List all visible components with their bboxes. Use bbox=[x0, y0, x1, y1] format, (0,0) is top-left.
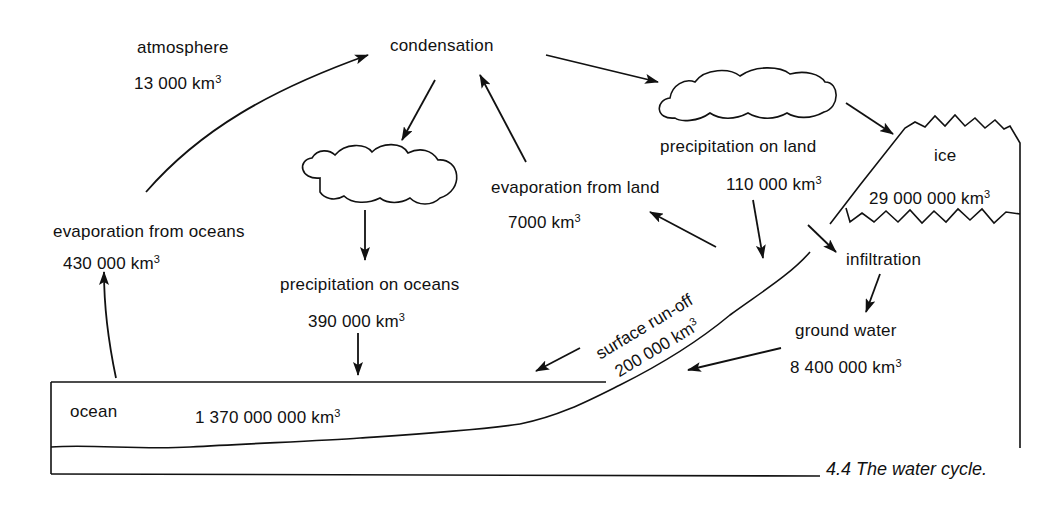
ocean-label: ocean bbox=[70, 402, 117, 422]
arrow-ground-water-flow bbox=[688, 348, 781, 370]
evaporation-land-value: 7000 km3 bbox=[508, 208, 581, 233]
ice-mountain-icon bbox=[830, 115, 1020, 448]
arrow-surface-runoff bbox=[536, 348, 580, 371]
infiltration-label: infiltration bbox=[846, 250, 921, 270]
precipitation-land-value: 110 000 km3 bbox=[726, 170, 822, 195]
ice-label: ice bbox=[934, 146, 956, 166]
arrow-condensation-to-land-cloud bbox=[546, 55, 658, 82]
precipitation-oceans-label: precipitation on oceans bbox=[280, 275, 459, 295]
evaporation-land-label: evaporation from land bbox=[491, 178, 660, 198]
flow-arrows bbox=[104, 55, 893, 378]
arrow-precipitation-on-land bbox=[753, 200, 763, 258]
arrow-evaporation-from-oceans bbox=[104, 272, 116, 378]
ocean-basin bbox=[51, 382, 820, 476]
atmosphere-value: 13 000 km3 bbox=[134, 69, 222, 94]
ice-value: 29 000 000 km3 bbox=[869, 184, 990, 209]
ground-water-value: 8 400 000 km3 bbox=[790, 353, 902, 378]
arrow-to-ground-water bbox=[866, 274, 880, 312]
evaporation-oceans-label: evaporation from oceans bbox=[53, 222, 245, 242]
arrow-condensation-to-cloud bbox=[402, 80, 435, 140]
cloud-icon bbox=[303, 145, 457, 204]
precipitation-land-label: precipitation on land bbox=[660, 137, 816, 157]
condensation-label: condensation bbox=[390, 36, 494, 56]
arrow-evaporation-from-land bbox=[650, 212, 716, 247]
arrow-infiltration bbox=[808, 225, 836, 252]
figure-caption: 4.4 The water cycle. bbox=[826, 459, 987, 480]
arrow-evaporation-from-land-up bbox=[480, 75, 526, 162]
precipitation-oceans-value: 390 000 km3 bbox=[308, 307, 405, 332]
evaporation-oceans-value: 430 000 km3 bbox=[63, 249, 160, 274]
water-cycle-diagram: atmosphere 13 000 km3 condensation evapo… bbox=[0, 0, 1042, 516]
cloud-icon bbox=[659, 68, 836, 121]
atmosphere-label: atmosphere bbox=[137, 38, 229, 58]
arrow-to-ice bbox=[846, 103, 893, 134]
ground-water-label: ground water bbox=[795, 321, 897, 341]
ocean-value: 1 370 000 000 km3 bbox=[195, 403, 341, 428]
